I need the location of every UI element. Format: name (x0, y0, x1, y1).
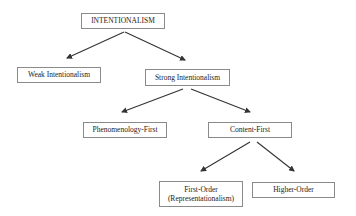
edge-strong-phenomenology (122, 89, 183, 112)
edge-content-higherorder (257, 142, 294, 171)
node-label: Weak Intentionalism (28, 70, 90, 79)
edge-content-firstorder (201, 142, 250, 171)
node-first-order: First-Order (Representationalism) (159, 181, 243, 207)
edge-root-weak (67, 32, 124, 58)
node-label: Strong Intentionalism (155, 73, 220, 82)
node-intentionalism: INTENTIONALISM (81, 13, 165, 29)
node-label: Content-First (230, 125, 270, 134)
node-label: Phenomenology-First (93, 125, 158, 134)
node-weak-intentionalism: Weak Intentionalism (17, 67, 101, 83)
node-phenomenology-first: Phenomenology-First (83, 122, 167, 138)
node-content-first: Content-First (208, 122, 292, 138)
node-strong-intentionalism: Strong Intentionalism (145, 69, 230, 86)
node-label: INTENTIONALISM (91, 16, 155, 25)
edge-strong-content (191, 89, 250, 112)
edge-root-strong (125, 32, 185, 60)
node-label-line2: (Representationalism) (168, 194, 234, 203)
node-label-line1: First-Order (184, 185, 218, 194)
node-higher-order: Higher-Order (252, 182, 335, 198)
node-label: Higher-Order (273, 185, 314, 194)
